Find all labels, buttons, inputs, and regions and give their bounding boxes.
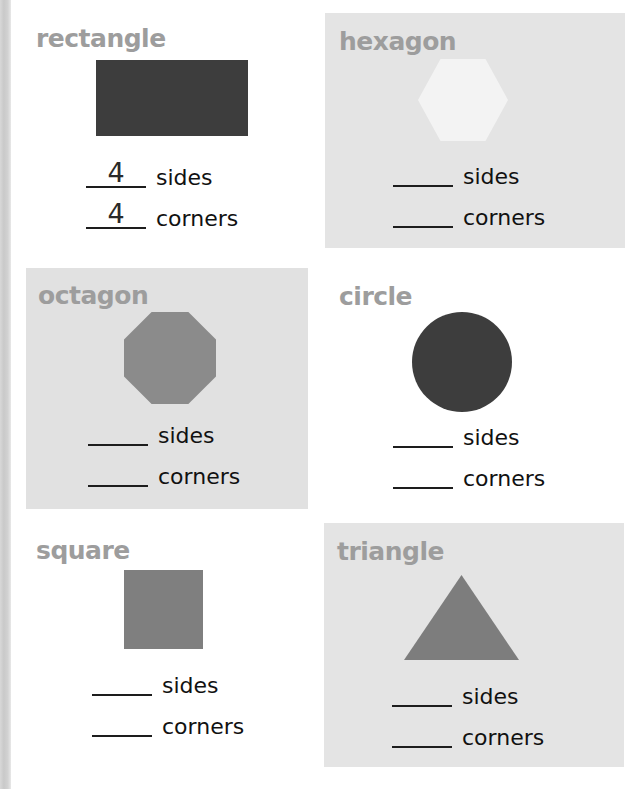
shape-octagon-stage <box>124 312 216 404</box>
shape-triangle-stage <box>404 575 519 660</box>
shape-panel-square: square sides corners <box>22 522 308 767</box>
sides-blank-circle[interactable] <box>393 422 453 452</box>
shape-panel-rectangle: rectangle 4 sides 4 corners <box>22 10 308 255</box>
corners-blank-rectangle[interactable]: 4 <box>86 203 146 233</box>
shape-panel-hexagon: hexagon sides corners <box>325 13 625 248</box>
corners-written-answer: 4 <box>86 200 146 227</box>
blank-line <box>92 694 152 696</box>
sides-label: sides <box>453 166 520 191</box>
sides-label: sides <box>146 167 213 192</box>
corners-blank-hexagon[interactable] <box>393 202 453 232</box>
answer-row-corners-rectangle: 4 corners <box>86 203 238 233</box>
shape-rectangle-stage <box>96 60 248 136</box>
octagon-shape <box>124 312 216 404</box>
blank-line <box>392 705 452 707</box>
sides-blank-square[interactable] <box>92 670 152 700</box>
shape-hexagon-stage <box>418 59 508 141</box>
panel-title-triangle: triangle <box>337 539 444 564</box>
answer-row-corners-hexagon: corners <box>393 202 545 232</box>
corners-label: corners <box>148 466 240 491</box>
corners-blank-square[interactable] <box>92 711 152 741</box>
blank-line <box>88 444 148 446</box>
corners-label: corners <box>152 716 244 741</box>
sides-written-answer: 4 <box>86 159 146 186</box>
answer-row-corners-circle: corners <box>393 463 545 493</box>
sides-label: sides <box>452 686 519 711</box>
blank-line <box>393 487 453 489</box>
corners-blank-octagon[interactable] <box>88 461 148 491</box>
corners-label: corners <box>146 208 238 233</box>
blank-line <box>393 185 453 187</box>
sides-label: sides <box>453 427 520 452</box>
answer-row-sides-octagon: sides <box>88 420 215 450</box>
panel-title-square: square <box>36 538 130 563</box>
answer-row-corners-octagon: corners <box>88 461 240 491</box>
sides-blank-octagon[interactable] <box>88 420 148 450</box>
sides-blank-triangle[interactable] <box>392 681 452 711</box>
blank-line <box>392 746 452 748</box>
sides-label: sides <box>152 675 219 700</box>
shape-panel-circle: circle sides corners <box>325 268 625 509</box>
answer-row-sides-triangle: sides <box>392 681 519 711</box>
corners-blank-triangle[interactable] <box>392 722 452 752</box>
panel-title-octagon: octagon <box>38 283 148 308</box>
sides-blank-rectangle[interactable]: 4 <box>86 162 146 192</box>
worksheet-sheet: rectangle 4 sides 4 corners hexagon <box>0 0 634 789</box>
sides-blank-hexagon[interactable] <box>393 161 453 191</box>
corners-blank-circle[interactable] <box>393 463 453 493</box>
answer-row-sides-square: sides <box>92 670 219 700</box>
shape-panel-triangle: triangle sides corners <box>324 523 624 767</box>
corners-label: corners <box>453 207 545 232</box>
square-shape <box>124 570 203 649</box>
circle-shape <box>412 312 512 412</box>
panel-title-hexagon: hexagon <box>339 29 456 54</box>
triangle-shape <box>404 575 519 660</box>
blank-line <box>393 226 453 228</box>
answer-row-sides-circle: sides <box>393 422 520 452</box>
sides-label: sides <box>148 425 215 450</box>
panel-title-circle: circle <box>339 284 412 309</box>
blank-line <box>92 735 152 737</box>
rectangle-shape <box>96 60 248 136</box>
corners-label: corners <box>452 727 544 752</box>
answer-row-sides-hexagon: sides <box>393 161 520 191</box>
answer-row-corners-triangle: corners <box>392 722 544 752</box>
hexagon-shape <box>418 59 508 141</box>
blank-line <box>393 446 453 448</box>
panel-title-rectangle: rectangle <box>36 26 166 51</box>
answer-row-sides-rectangle: 4 sides <box>86 162 213 192</box>
corners-label: corners <box>453 468 545 493</box>
shape-circle-stage <box>412 312 512 412</box>
blank-line <box>88 485 148 487</box>
shape-square-stage <box>124 570 203 649</box>
answer-row-corners-square: corners <box>92 711 244 741</box>
shape-panel-octagon: octagon sides corners <box>26 268 308 509</box>
